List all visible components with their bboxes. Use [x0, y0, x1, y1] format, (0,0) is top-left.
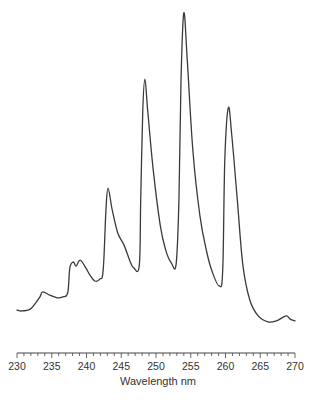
- plot-area: [17, 13, 295, 323]
- x-tick-label: 260: [217, 360, 235, 372]
- x-tick-label: 240: [78, 360, 96, 372]
- x-tick-label: 265: [251, 360, 269, 372]
- spectrum-chart: 230235240245250255260265270 Wavelength n…: [0, 0, 313, 400]
- x-tick-label: 255: [182, 360, 200, 372]
- x-axis-title: Wavelength nm: [120, 375, 196, 387]
- x-tick-label: 230: [8, 360, 26, 372]
- x-tick-label: 270: [286, 360, 304, 372]
- x-tick-label: 235: [43, 360, 61, 372]
- x-tick-labels: 230235240245250255260265270: [8, 360, 304, 372]
- x-tick-label: 250: [147, 360, 165, 372]
- series-line-spectrum: [17, 13, 295, 323]
- x-tick-label: 245: [112, 360, 130, 372]
- x-axis: 230235240245250255260265270 Wavelength n…: [8, 353, 304, 387]
- x-ticks: [17, 353, 295, 358]
